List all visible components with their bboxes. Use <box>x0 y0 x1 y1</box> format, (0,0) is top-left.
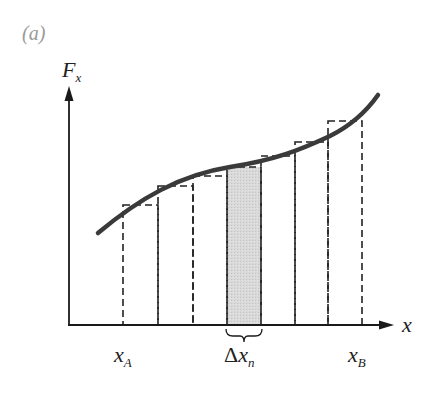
rect-1 <box>123 205 158 325</box>
y-axis-label: Fx <box>61 57 81 85</box>
panel-label: (a) <box>22 22 46 45</box>
riemann-sum-figure: (a) Fx x xA <box>0 0 436 396</box>
rect-7 <box>328 121 362 325</box>
x-axis-arrow-icon <box>379 321 394 330</box>
rect-3 <box>193 176 227 325</box>
shaded-interval-rect <box>227 167 261 325</box>
interval-brace <box>226 329 262 342</box>
rect-6 <box>295 142 328 325</box>
x-axis-label: x <box>401 312 412 337</box>
x-start-label: xA <box>113 342 132 370</box>
rect-5 <box>261 156 295 325</box>
y-axis-arrow-icon <box>65 86 74 101</box>
interval-label: Δxn <box>224 342 254 370</box>
x-end-label: xB <box>347 342 366 370</box>
rect-2 <box>158 186 193 325</box>
